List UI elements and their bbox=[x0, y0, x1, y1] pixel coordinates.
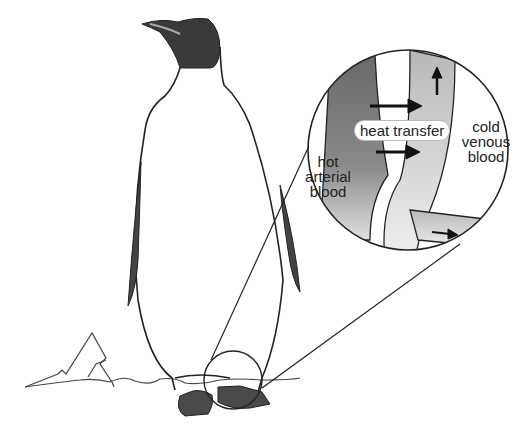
hot-arterial-label: hot arterial blood bbox=[298, 154, 358, 199]
penguin-diagram bbox=[0, 0, 530, 436]
right-foot bbox=[218, 386, 270, 408]
iceberg bbox=[25, 333, 300, 387]
cold-venous-label: cold venous blood bbox=[456, 119, 516, 164]
heat-transfer-label: heat transfer bbox=[354, 120, 450, 141]
penguin bbox=[135, 47, 283, 392]
left-flipper bbox=[128, 162, 141, 306]
